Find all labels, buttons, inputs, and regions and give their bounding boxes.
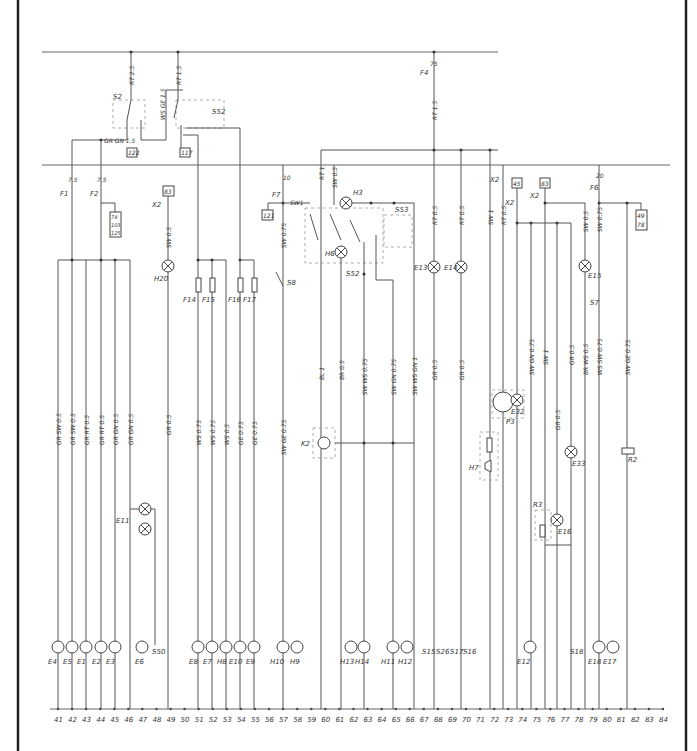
- wire-label: RT 0.5: [458, 206, 465, 225]
- fuse-f6-label: F6: [590, 184, 599, 192]
- fuse-f15-label: F15: [202, 296, 215, 304]
- wire-label: GR RT 0.5: [98, 415, 105, 445]
- switch-s16-label: S16: [463, 648, 477, 656]
- resistor-r3-icon: [540, 525, 545, 537]
- wire-label: SW 0.5: [331, 167, 338, 188]
- lamp-h6-label: H6: [325, 250, 335, 258]
- terminal-number: 67: [420, 716, 429, 724]
- wire-label: GR 0.5: [165, 415, 172, 435]
- terminal-number: 51: [195, 716, 204, 724]
- wire-label: SW WS GN 1: [411, 357, 418, 395]
- switch-s8-label: S8: [287, 279, 296, 287]
- wire-label: SW GE 0.75: [280, 419, 287, 455]
- lamp-h3-label: H3: [353, 189, 363, 197]
- connector-ref-74: 74: [111, 214, 117, 220]
- lamp-e2-label: E2: [92, 658, 101, 666]
- fuse-f14-icon: [196, 278, 201, 292]
- connector-x2-label: X2: [151, 201, 162, 209]
- lamp-h9-label: H9: [290, 658, 300, 666]
- terminal-number-row: 4142434445464748495051525354555657585960…: [54, 708, 668, 724]
- switch-s52-label: S52: [346, 270, 360, 278]
- switch-s17-label: S17: [450, 648, 464, 656]
- connector-x2-label: X2: [504, 199, 515, 207]
- terminal-number: 60: [321, 716, 330, 724]
- lamp-e1-label: E1: [77, 658, 86, 666]
- lamp-h20-label: H20: [154, 275, 169, 283]
- connector-ref-117: 117: [181, 149, 193, 156]
- wire-label: RT 2.5: [128, 66, 135, 85]
- switch-s15-label: S15: [422, 648, 436, 656]
- wiring-diagram-sheet: RT 2.5 RT 1.5 S2 S52 WS GE 1.5 117 GR GN…: [0, 0, 697, 751]
- terminal-number: 49: [167, 716, 176, 724]
- lamp-e8-label: E8: [189, 658, 198, 666]
- s52-label-top: S52: [212, 108, 226, 116]
- terminal-number: 46: [124, 716, 133, 724]
- terminal-number: 81: [617, 716, 626, 724]
- terminal-number: 83: [645, 716, 654, 724]
- wire-label: RT 1.5: [431, 101, 438, 120]
- switch-s50-label: S50: [152, 648, 166, 656]
- wire-label: GR 0.5: [458, 360, 465, 380]
- fuse-rating: 10: [283, 174, 291, 181]
- wire-label: RT 0.5: [431, 206, 438, 225]
- fuse-f1-label: F1: [60, 190, 68, 198]
- connector-ref-83: 83: [541, 180, 549, 187]
- wire-label: GR 0.5: [554, 410, 561, 430]
- wire-label: GR 0.5: [568, 345, 575, 365]
- connector-ref-125: 125: [111, 230, 121, 236]
- terminal-number: 57: [279, 716, 288, 724]
- connector-ref-49: 49: [637, 212, 645, 219]
- connector-ref-45: 45: [513, 180, 521, 187]
- lamp-e17-label: E17: [603, 658, 617, 666]
- lamp-h8-label: H8: [217, 658, 227, 666]
- wire-label: WS 0.75: [195, 420, 202, 445]
- wire-label-gr-gn-1-5: GR GN 1.5: [104, 137, 135, 144]
- terminal-number: 68: [434, 716, 443, 724]
- s2-label: S2: [113, 93, 122, 101]
- lamp-e12-label: E12: [517, 658, 531, 666]
- terminal-number: 76: [546, 716, 555, 724]
- fuse-rating: 75: [430, 60, 438, 67]
- fuse-f16-icon: [238, 278, 243, 292]
- terminal-number: 53: [223, 716, 232, 724]
- connector-x2-label: X2: [489, 176, 500, 184]
- lamp-e4-label: E4: [48, 658, 57, 666]
- connector-ref-78: 78: [637, 221, 645, 228]
- wire-label: BR WS 0.5: [582, 343, 589, 375]
- terminal-number: 62: [350, 716, 359, 724]
- terminal-number: 42: [68, 716, 77, 724]
- terminal-number: 43: [82, 716, 91, 724]
- terminal-number: 69: [448, 716, 457, 724]
- connector-ref-103: 103: [111, 222, 121, 228]
- wire-label: SW GE 0.75: [624, 339, 631, 375]
- lamp-h11-label: H11: [381, 658, 395, 666]
- connector-ref-121: 121: [263, 212, 274, 219]
- wire-label: RT 1: [318, 166, 325, 180]
- gauge-p3-label: P3: [506, 418, 515, 426]
- terminal-number: 66: [406, 716, 415, 724]
- terminal-number: 82: [631, 716, 640, 724]
- terminal-number: 79: [589, 716, 598, 724]
- wire-label: RT 0.5: [500, 206, 507, 225]
- wire-label: SW 0.75: [280, 223, 287, 248]
- wire-label: WS GE 1.5: [159, 88, 166, 120]
- fuse-rating: 20: [596, 172, 604, 179]
- connector-ref-122: 122: [128, 149, 140, 156]
- connector-ref-83: 83: [164, 188, 172, 195]
- fuse-f7-label: F7: [272, 191, 281, 199]
- lamp-e15-label: E15: [588, 272, 602, 280]
- wire-label: GR SW 0.5: [69, 413, 76, 445]
- terminal-number: 63: [364, 716, 373, 724]
- lamp-e5-label: E5: [63, 658, 72, 666]
- lamp-e16-label: E16: [558, 528, 572, 536]
- wire-label: SW 0.5: [165, 227, 172, 248]
- lamp-h14-label: H14: [355, 658, 369, 666]
- gauge-p3-icon: [493, 392, 513, 412]
- relay-k2-label: K2: [301, 440, 311, 448]
- resistor-r2-label: R2: [628, 456, 638, 464]
- wire-label: BR 0.5: [338, 360, 345, 380]
- wire-label: SW 0.75: [596, 207, 603, 232]
- lamp-e7-label: E7: [203, 658, 212, 666]
- switch-s53-label: S53: [395, 206, 408, 214]
- fuse-f4-label: F4: [420, 69, 428, 77]
